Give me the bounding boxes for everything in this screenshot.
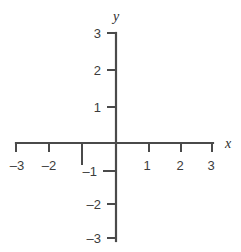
x-tick-label-pos-1: 1 bbox=[143, 158, 150, 173]
x-tick-label-pos-3: 3 bbox=[207, 158, 214, 173]
y-tick-label-neg-2: –2 bbox=[87, 197, 101, 212]
x-axis-label: x bbox=[224, 136, 232, 151]
x-tick-label-pos-2: 2 bbox=[176, 158, 183, 173]
y-tick-label-pos-1: 1 bbox=[94, 100, 101, 115]
y-tick-label-pos-3: 3 bbox=[94, 26, 101, 41]
y-tick-label-neg-3: –3 bbox=[87, 231, 101, 246]
y-tick-label-neg-1: –1 bbox=[83, 164, 97, 179]
x-tick-label-neg-3: –3 bbox=[10, 158, 24, 173]
axes-svg: –3 –2 1 2 3 3 2 1 –1 –2 –3 y x bbox=[0, 0, 241, 252]
x-tick-label-neg-2: –2 bbox=[42, 158, 56, 173]
coordinate-plane-figure: –3 –2 1 2 3 3 2 1 –1 –2 –3 y x bbox=[0, 0, 241, 252]
y-tick-label-pos-2: 2 bbox=[94, 63, 101, 78]
y-axis-label: y bbox=[111, 9, 120, 24]
